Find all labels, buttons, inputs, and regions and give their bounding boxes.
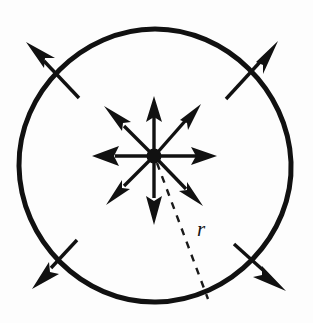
sphere-expansion-diagram: r (0, 0, 313, 323)
radius-label: r (197, 217, 206, 241)
figure-container: r (0, 0, 313, 323)
center-dot (147, 149, 162, 164)
